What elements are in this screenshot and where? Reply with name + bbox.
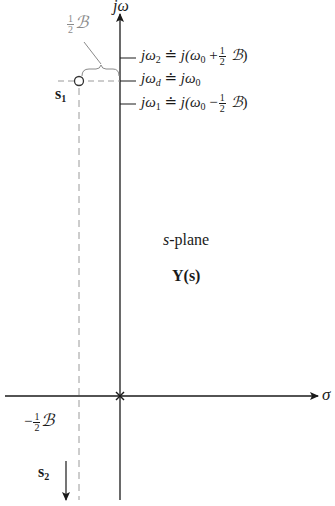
- plane-title: s-plane: [163, 232, 209, 248]
- pole-s2-label: s2: [38, 464, 49, 480]
- freq-mark-omega2: jω2 ≐ j(ω0 +12 ℬ): [141, 46, 248, 67]
- half-bandwidth-label: 12ℬ: [66, 14, 88, 35]
- imaginary-axis-label: jω: [113, 0, 129, 14]
- real-axis-label: σ: [322, 386, 330, 403]
- freq-mark-omega1: jω1 ≐ j(ω0 −12 ℬ): [141, 93, 248, 114]
- pole-s1-icon: [75, 77, 84, 86]
- freq-mark-omegad: jωd ≐ jω0: [141, 71, 201, 86]
- pole-s1-label: s1: [55, 86, 66, 102]
- bandwidth-brace: [82, 65, 119, 76]
- neg-half-bandwidth-label: −12ℬ: [24, 412, 54, 433]
- bandwidth-leader: [84, 42, 101, 64]
- function-label: Y(s): [172, 268, 200, 284]
